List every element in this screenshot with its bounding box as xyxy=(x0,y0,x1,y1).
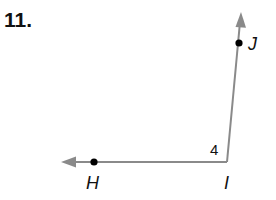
label-j: J xyxy=(247,34,258,54)
angle-label: 4 xyxy=(210,141,218,158)
point-j xyxy=(235,39,242,46)
label-i: I xyxy=(224,173,229,193)
arrowhead-left-icon xyxy=(61,157,76,168)
label-h: H xyxy=(86,173,100,193)
angle-diagram: J H I 4 xyxy=(0,0,276,200)
point-h xyxy=(90,158,97,165)
arrowhead-up-icon xyxy=(236,12,247,28)
